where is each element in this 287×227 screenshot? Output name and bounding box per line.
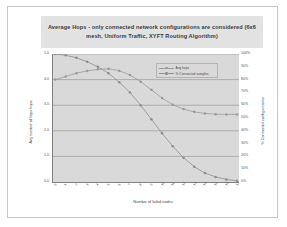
y-tick-label: 1.0 bbox=[37, 154, 49, 158]
secondary-y-tick-label: 50% bbox=[241, 116, 255, 120]
legend-label: Avg hops bbox=[176, 66, 190, 70]
secondary-y-tick-label: 70% bbox=[241, 90, 255, 94]
secondary-y-tick-label: 90% bbox=[241, 65, 255, 69]
secondary-y-tick-label: 80% bbox=[241, 78, 255, 82]
secondary-y-tick-label: 30% bbox=[241, 142, 255, 146]
secondary-y-axis-title: % Connected configurations bbox=[262, 79, 266, 163]
secondary-y-tick-label: 60% bbox=[241, 103, 255, 107]
y-tick-label: 2.0 bbox=[37, 129, 49, 133]
y-tick-label: 5.0 bbox=[37, 52, 49, 56]
secondary-y-tick-label: 20% bbox=[241, 154, 255, 158]
legend-marker-icon bbox=[159, 72, 174, 76]
chart-frame: Average Hops - only connected network co… bbox=[7, 6, 278, 218]
secondary-y-tick-label: 100% bbox=[241, 52, 255, 56]
secondary-y-tick-label: 10% bbox=[241, 167, 255, 171]
chart-title-box: Average Hops - only connected network co… bbox=[41, 16, 263, 48]
chart-legend: Avg hops % Connected samples bbox=[156, 63, 218, 78]
chart-title: Average Hops - only connected network co… bbox=[41, 23, 263, 40]
y-tick-label: 0.0 bbox=[37, 180, 49, 184]
secondary-y-tick-label: 40% bbox=[241, 129, 255, 133]
y-axis-title: Avg number of hops hops bbox=[30, 82, 34, 162]
legend-marker-icon bbox=[159, 66, 174, 70]
legend-item[interactable]: % Connected samples bbox=[159, 71, 215, 77]
x-axis-title: Number of failed nodes bbox=[93, 201, 213, 205]
legend-label: % Connected samples bbox=[176, 72, 209, 76]
secondary-y-tick-label: 0% bbox=[241, 180, 255, 184]
y-tick-label: 4.0 bbox=[37, 78, 49, 82]
y-tick-label: 3.0 bbox=[37, 103, 49, 107]
